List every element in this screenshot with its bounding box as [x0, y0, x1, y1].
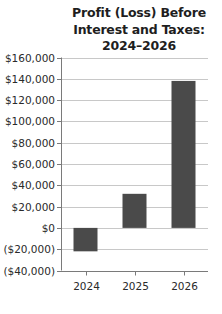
y-tick-label: $20,000: [12, 201, 55, 213]
y-tick-label: $160,000: [5, 52, 55, 64]
bar-2025: [123, 194, 147, 228]
bar-2024: [74, 228, 98, 251]
bars: [74, 81, 196, 251]
y-tick-label: $140,000: [5, 73, 55, 85]
y-tick-label: $100,000: [5, 115, 55, 127]
x-tick-label: 2026: [171, 280, 198, 292]
x-tick-label: 2025: [122, 280, 149, 292]
y-tick-label: $40,000: [12, 179, 55, 191]
x-tick-labels: 202420252026: [73, 280, 198, 292]
y-tick-label: $120,000: [5, 94, 55, 106]
y-tick-labels: $160,000$140,000$120,000$100,000$80,000$…: [3, 52, 55, 277]
y-tick-label: $0: [42, 222, 55, 234]
y-tick-label: ($40,000): [3, 265, 55, 277]
x-tick-label: 2024: [73, 280, 100, 292]
bar-chart: $160,000$140,000$120,000$100,000$80,000$…: [0, 0, 222, 314]
bar-2026: [172, 81, 196, 228]
y-tick-label: $60,000: [12, 158, 55, 170]
y-tick-label: ($20,000): [3, 243, 55, 255]
y-tick-label: $80,000: [12, 137, 55, 149]
